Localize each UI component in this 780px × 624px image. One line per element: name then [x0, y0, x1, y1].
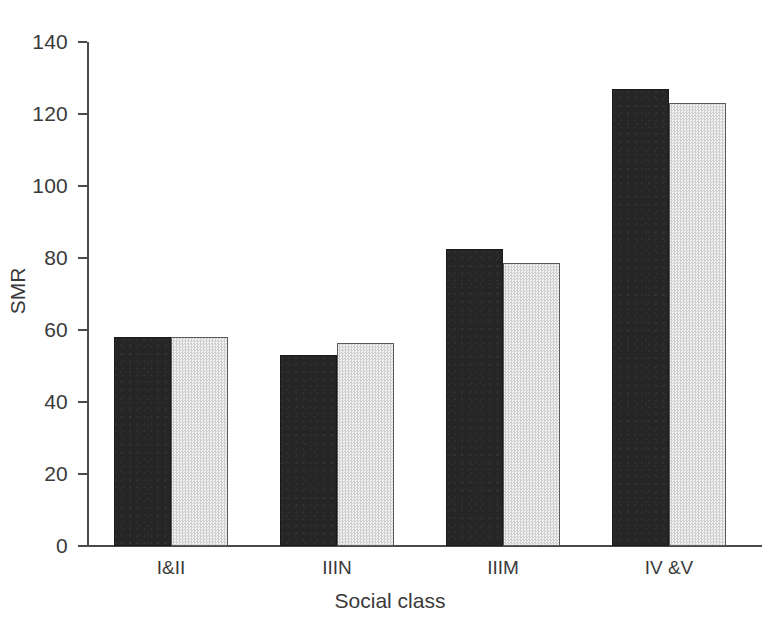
bar	[669, 103, 726, 546]
x-axis-tick-label: IV &V	[609, 557, 729, 579]
y-axis-tick-label: 60	[8, 319, 68, 340]
y-axis-tick-label: 100	[8, 175, 68, 196]
plot-area	[88, 42, 760, 546]
bar	[280, 355, 337, 546]
bar	[114, 337, 171, 546]
y-axis-tick-label: 80	[8, 247, 68, 268]
y-axis-tick-label: 120	[8, 103, 68, 124]
y-axis-tick	[78, 41, 87, 43]
y-axis-tick	[78, 545, 87, 547]
x-axis-tick-label: I&II	[111, 557, 231, 579]
x-axis-tick-label: IIIM	[443, 557, 563, 579]
y-axis-tick	[78, 113, 87, 115]
x-axis-tick-label: IIIN	[277, 557, 397, 579]
bar	[171, 337, 228, 546]
y-axis-tick	[78, 329, 87, 331]
y-axis-tick-label: 20	[8, 463, 68, 484]
bar	[612, 89, 669, 546]
y-axis-tick-label: 140	[8, 31, 68, 52]
bar	[446, 249, 503, 546]
y-axis-tick-label: 40	[8, 391, 68, 412]
bar	[503, 263, 560, 546]
y-axis-tick-label: 0	[8, 535, 68, 556]
bar-chart: SMR 020406080100120140 I&IIIIINIIIMIV &V…	[0, 0, 780, 624]
x-axis-title: Social class	[0, 589, 780, 613]
y-axis-tick	[78, 257, 87, 259]
bar	[337, 343, 394, 546]
y-axis-tick	[78, 473, 87, 475]
y-axis-tick	[78, 401, 87, 403]
y-axis-tick	[78, 185, 87, 187]
